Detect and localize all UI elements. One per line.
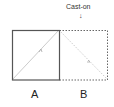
cast-on-diagram: Cast-on ↓ A B bbox=[0, 0, 114, 107]
panel-a-diagonal bbox=[12, 30, 59, 80]
panels-graphic bbox=[0, 0, 114, 107]
panel-b-label: B bbox=[80, 89, 87, 100]
panel-b-diagonal bbox=[59, 30, 108, 80]
panel-b-border bbox=[60, 31, 108, 81]
panel-b-direction-arrow-icon bbox=[87, 60, 90, 62]
panel-a-label: A bbox=[31, 89, 38, 100]
